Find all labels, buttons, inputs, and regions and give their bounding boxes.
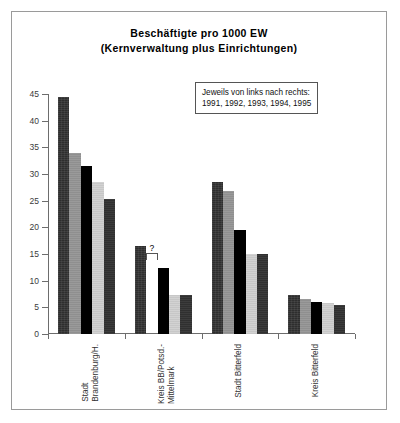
y-axis-tick-label: 20: [30, 222, 39, 232]
bar: [69, 153, 80, 334]
bar: [223, 191, 234, 334]
x-axis-category-label-line: Kreis BB/Potsd.-: [157, 344, 167, 404]
missing-value-question-mark: ?: [149, 244, 154, 252]
bar: [81, 166, 92, 334]
y-axis-tick-label: 15: [30, 249, 39, 259]
x-axis-category-label-line: Stadt Bitterfeld: [234, 344, 244, 398]
bar: [288, 295, 299, 334]
bar-group: [212, 94, 269, 334]
bar: [169, 295, 180, 334]
y-axis-tick: [42, 121, 48, 122]
bar: [158, 268, 169, 334]
bar: [212, 182, 223, 334]
y-axis-tick-label: 35: [30, 142, 39, 152]
bar: [135, 246, 146, 334]
bar: [104, 199, 115, 334]
y-axis-tick-label: 40: [30, 116, 39, 126]
bar: [300, 299, 311, 334]
bar-group: [288, 94, 345, 334]
x-axis-category-label-line: Kreis Bitterfeld: [311, 344, 321, 397]
bar: [180, 295, 191, 334]
x-axis-tick: [278, 334, 279, 339]
bar: [257, 254, 268, 334]
x-axis-category-label: Kreis Bitterfeld: [311, 344, 321, 397]
page-title: Beschäftigte pro 1000 EW (Kernverwaltung…: [12, 26, 386, 56]
y-axis-tick: [42, 281, 48, 282]
y-axis-tick: [42, 307, 48, 308]
y-axis-tick-label: 0: [34, 329, 39, 339]
x-axis-category-label: Kreis BB/Potsd.-Mittelmark: [157, 344, 177, 404]
bar: [311, 302, 322, 334]
missing-value-bracket: [146, 253, 157, 260]
bar: [234, 230, 245, 334]
y-axis-tick: [42, 254, 48, 255]
bar-group: [58, 94, 115, 334]
bar: [334, 305, 345, 334]
y-axis-tick: [42, 201, 48, 202]
x-axis-category-label-line: Brandenburg/H.: [91, 344, 101, 402]
chart-frame: Beschäftigte pro 1000 EW (Kernverwaltung…: [11, 11, 387, 410]
y-axis-line: [48, 94, 49, 334]
missing-value-marker: ?: [146, 246, 157, 334]
plot-area: 051015202530354045 ?: [48, 94, 355, 334]
y-axis-tick: [42, 174, 48, 175]
x-axis-tick: [48, 334, 49, 339]
bar: [246, 254, 257, 334]
y-axis-tick-label: 45: [30, 89, 39, 99]
y-axis-tick-label: 5: [34, 302, 39, 312]
x-axis-category-label: StadtBrandenburg/H.: [81, 344, 101, 402]
y-axis-tick: [42, 227, 48, 228]
x-axis-category-label-line: Mittelmark: [167, 344, 177, 404]
x-axis-tick: [202, 334, 203, 339]
bar-group: ?: [135, 94, 192, 334]
x-axis-tick: [355, 334, 356, 339]
y-axis-tick: [42, 147, 48, 148]
y-axis-tick: [42, 94, 48, 95]
y-axis-tick-label: 30: [30, 169, 39, 179]
bar: [58, 97, 69, 334]
x-axis-category-label-line: Stadt: [81, 344, 91, 402]
chart-title-line-1: Beschäftigte pro 1000 EW: [12, 26, 386, 41]
bar: [92, 182, 103, 334]
x-axis-tick: [125, 334, 126, 339]
chart-title-line-2: (Kernverwaltung plus Einrichtungen): [12, 41, 386, 56]
bar: [322, 303, 333, 334]
y-axis-tick-label: 10: [30, 276, 39, 286]
y-axis-tick-label: 25: [30, 196, 39, 206]
x-axis-category-label: Stadt Bitterfeld: [234, 344, 244, 398]
